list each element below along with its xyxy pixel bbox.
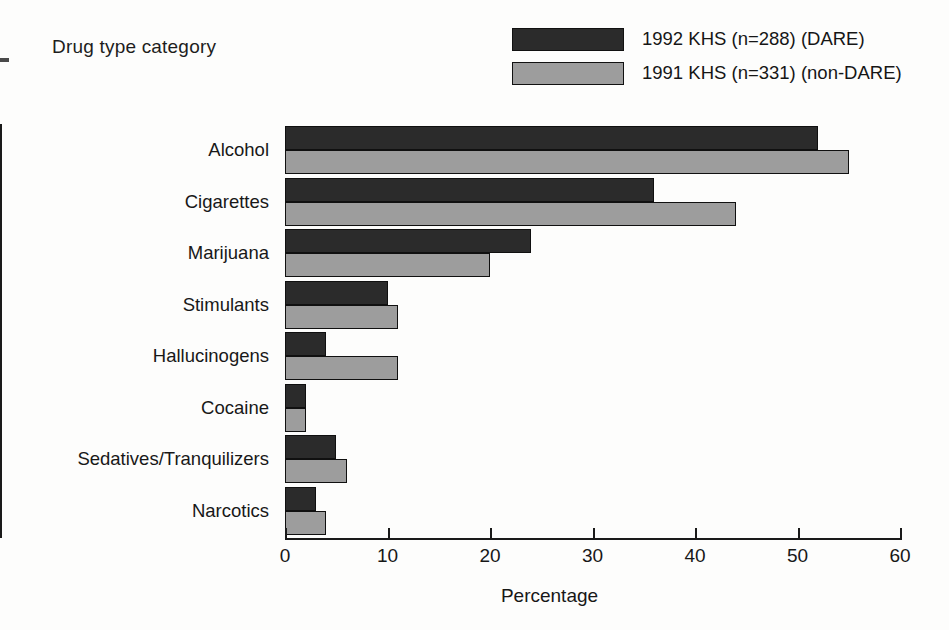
bar xyxy=(285,253,490,277)
x-axis-title-text: Percentage xyxy=(351,585,598,606)
y-axis-line xyxy=(0,124,2,538)
legend-label-non-dare: 1991 KHS (n=331) (non-DARE) xyxy=(642,62,902,84)
bar xyxy=(285,487,316,511)
chart-legend: 1992 KHS (n=288) (DARE) 1991 KHS (n=331)… xyxy=(512,22,902,90)
bar xyxy=(285,459,347,483)
x-tick-label: 10 xyxy=(377,545,398,567)
legend-label-dare: 1992 KHS (n=288) (DARE) xyxy=(642,28,865,50)
category-label: Stimulants xyxy=(183,296,269,315)
bar-group: Sedatives/Tranquilizers xyxy=(285,435,900,483)
x-axis-title: Percentage xyxy=(0,585,949,607)
x-tick-mark xyxy=(490,528,492,539)
category-label: Marijuana xyxy=(188,244,269,263)
bar xyxy=(285,435,336,459)
x-tick-mark xyxy=(798,528,800,539)
bar xyxy=(285,408,306,432)
bar xyxy=(285,384,306,408)
x-tick-label: 60 xyxy=(889,545,910,567)
x-tick-mark xyxy=(900,528,902,539)
bar-group: Hallucinogens xyxy=(285,332,900,380)
page-edge-artifact xyxy=(0,58,9,62)
x-tick-label: 20 xyxy=(479,545,500,567)
category-label: Sedatives/Tranquilizers xyxy=(77,450,269,469)
chart-figure: Drug type category 1992 KHS (n=288) (DAR… xyxy=(0,0,949,630)
x-tick-label: 40 xyxy=(684,545,705,567)
bar-group: Stimulants xyxy=(285,281,900,329)
bar-group: Alcohol xyxy=(285,126,900,174)
y-axis-title: Drug type category xyxy=(52,36,216,58)
category-label: Alcohol xyxy=(208,141,269,160)
x-tick-label: 50 xyxy=(787,545,808,567)
plot-area: AlcoholCigarettesMarijuanaStimulantsHall… xyxy=(285,124,900,538)
bar xyxy=(285,356,398,380)
bar xyxy=(285,305,398,329)
x-tick-mark xyxy=(695,528,697,539)
bar xyxy=(285,150,849,174)
category-label: Cocaine xyxy=(201,399,269,418)
bar xyxy=(285,202,736,226)
bar xyxy=(285,281,388,305)
bar-group: Marijuana xyxy=(285,229,900,277)
category-label: Hallucinogens xyxy=(153,347,269,366)
x-tick-label: 0 xyxy=(280,545,291,567)
x-tick-mark xyxy=(388,528,390,539)
x-tick-mark xyxy=(285,528,287,539)
bar-group: Cocaine xyxy=(285,384,900,432)
bar xyxy=(285,511,326,535)
bar xyxy=(285,178,654,202)
category-label: Cigarettes xyxy=(185,193,269,212)
x-tick-mark xyxy=(593,528,595,539)
bar xyxy=(285,126,818,150)
legend-swatch-non-dare xyxy=(512,62,624,85)
legend-item-dare: 1992 KHS (n=288) (DARE) xyxy=(512,22,902,56)
legend-swatch-dare xyxy=(512,28,624,51)
x-tick-label: 30 xyxy=(582,545,603,567)
bar xyxy=(285,229,531,253)
bar xyxy=(285,332,326,356)
category-label: Narcotics xyxy=(192,502,269,521)
legend-item-non-dare: 1991 KHS (n=331) (non-DARE) xyxy=(512,56,902,90)
bar-group: Cigarettes xyxy=(285,178,900,226)
